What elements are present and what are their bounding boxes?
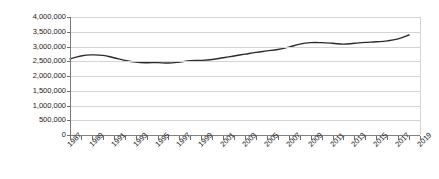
x-tick-mark xyxy=(234,136,235,140)
y-tick-label: 2,500,000 xyxy=(2,57,66,65)
x-tick-mark xyxy=(81,136,82,140)
y-tick-mark xyxy=(67,32,71,33)
y-axis-labels: 4,000,0003,500,0003,000,0002,500,0002,00… xyxy=(0,0,66,179)
x-tick-mark xyxy=(343,136,344,140)
y-tick-mark xyxy=(67,61,71,62)
x-tick-mark xyxy=(147,136,148,140)
x-tick-mark xyxy=(70,136,71,140)
x-tick-mark xyxy=(190,136,191,140)
x-tick-mark xyxy=(212,136,213,140)
gridline-horizontal xyxy=(70,32,420,33)
y-tick-mark xyxy=(67,120,71,121)
x-tick-mark xyxy=(267,136,268,140)
line-chart: 4,000,0003,500,0003,000,0002,500,0002,00… xyxy=(0,0,439,179)
y-tick-label: 3,500,000 xyxy=(2,28,66,36)
x-tick-mark xyxy=(376,136,377,140)
y-tick-label: 2,000,000 xyxy=(2,72,66,80)
x-tick-mark xyxy=(322,136,323,140)
x-tick-mark xyxy=(201,136,202,140)
x-tick-mark xyxy=(278,136,279,140)
x-tick-mark xyxy=(125,136,126,140)
x-tick-mark xyxy=(311,136,312,140)
y-tick-label: 4,000,000 xyxy=(2,13,66,21)
x-tick-mark xyxy=(168,136,169,140)
x-tick-mark xyxy=(256,136,257,140)
x-tick-mark xyxy=(223,136,224,140)
gridline-horizontal xyxy=(70,47,420,48)
x-tick-mark xyxy=(300,136,301,140)
gridline-horizontal xyxy=(70,106,420,107)
y-tick-mark xyxy=(67,47,71,48)
x-tick-mark xyxy=(420,136,421,140)
x-tick-mark xyxy=(245,136,246,140)
x-tick-mark xyxy=(398,136,399,140)
y-tick-label: 1,000,000 xyxy=(2,102,66,110)
gridline-horizontal xyxy=(70,91,420,92)
y-tick-mark xyxy=(67,91,71,92)
y-tick-label: 0 xyxy=(2,131,66,139)
y-tick-mark xyxy=(67,76,71,77)
x-tick-mark xyxy=(136,136,137,140)
x-tick-mark xyxy=(333,136,334,140)
y-tick-label: 500,000 xyxy=(2,116,66,124)
x-tick-mark xyxy=(114,136,115,140)
plot-area xyxy=(70,17,420,135)
x-tick-mark xyxy=(92,136,93,140)
y-tick-mark xyxy=(67,106,71,107)
gridline-horizontal xyxy=(70,120,420,121)
x-tick-mark xyxy=(409,136,410,140)
x-tick-mark xyxy=(289,136,290,140)
y-tick-label: 3,000,000 xyxy=(2,43,66,51)
x-tick-mark xyxy=(354,136,355,140)
gridline-horizontal xyxy=(70,17,420,18)
x-tick-mark xyxy=(365,136,366,140)
gridline-horizontal xyxy=(70,61,420,62)
y-tick-mark xyxy=(67,17,71,18)
series-line xyxy=(70,35,409,63)
x-tick-mark xyxy=(103,136,104,140)
plot-right-border xyxy=(420,17,421,135)
x-tick-mark xyxy=(158,136,159,140)
x-tick-mark xyxy=(179,136,180,140)
gridline-horizontal xyxy=(70,76,420,77)
y-tick-label: 1,500,000 xyxy=(2,87,66,95)
x-tick-mark xyxy=(387,136,388,140)
